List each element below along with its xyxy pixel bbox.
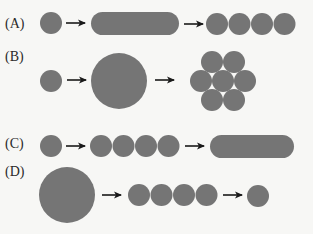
long-pill bbox=[91, 12, 179, 35]
diagram-canvas: (A) (B) bbox=[0, 0, 313, 234]
row-b: (B) bbox=[5, 49, 256, 111]
row-a: (A) bbox=[5, 12, 296, 35]
large-circle bbox=[39, 167, 95, 223]
four-circles-in-row bbox=[128, 184, 218, 206]
long-pill bbox=[210, 135, 294, 158]
small-circle bbox=[40, 12, 62, 34]
row-label-c: (C) bbox=[5, 136, 24, 152]
small-circle bbox=[247, 185, 269, 207]
large-circle bbox=[91, 53, 147, 109]
small-circle bbox=[40, 70, 62, 92]
small-circle bbox=[40, 135, 62, 157]
seven-circles-hex-cluster bbox=[190, 51, 256, 111]
four-circles-in-row bbox=[206, 13, 296, 35]
row-c: (C) bbox=[5, 135, 294, 158]
row-label-d: (D) bbox=[5, 164, 25, 180]
row-label-a: (A) bbox=[5, 16, 25, 32]
diagram-svg: (A) (B) bbox=[0, 0, 313, 234]
row-label-b: (B) bbox=[5, 49, 24, 65]
row-d: (D) bbox=[5, 164, 269, 223]
four-circles-in-row bbox=[90, 135, 180, 157]
